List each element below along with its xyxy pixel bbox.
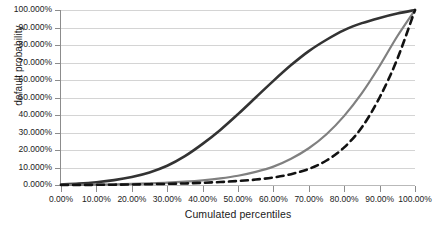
- x-tick-mark: [61, 186, 62, 192]
- x-tick-mark: [167, 186, 168, 192]
- chart-container: 0.000%10.000%20.000%30.000%40.000%50.000…: [0, 0, 435, 228]
- y-tick-label: 0.000%: [0, 179, 52, 189]
- y-tick-label: 10.000%: [0, 162, 52, 172]
- y-tick-label: 70.000%: [0, 57, 52, 67]
- y-tick-label: 80.000%: [0, 39, 52, 49]
- x-axis-title: Cumulated percentiles: [61, 208, 415, 220]
- y-tick-label: 100.000%: [0, 4, 52, 14]
- x-tick-mark: [380, 186, 381, 192]
- curve-dark-solid: [61, 10, 415, 184]
- data-series-layer: [61, 10, 415, 185]
- x-tick-mark: [238, 186, 239, 192]
- y-tick-label: 50.000%: [0, 92, 52, 102]
- x-tick-mark: [415, 186, 416, 192]
- x-tick-mark: [132, 186, 133, 192]
- y-axis-title: default probability: [13, 0, 24, 136]
- x-tick-label: 100.00%: [385, 194, 435, 204]
- curve-black-dashed: [61, 10, 415, 185]
- x-tick-mark: [344, 186, 345, 192]
- y-tick-label: 60.000%: [0, 74, 52, 84]
- x-tick-mark: [203, 186, 204, 192]
- x-tick-mark: [96, 186, 97, 192]
- y-tick-label: 90.000%: [0, 22, 52, 32]
- y-tick-label: 20.000%: [0, 144, 52, 154]
- x-tick-mark: [273, 186, 274, 192]
- y-tick-label: 40.000%: [0, 109, 52, 119]
- curve-gray-solid: [61, 10, 415, 185]
- y-tick-label: 30.000%: [0, 127, 52, 137]
- x-tick-mark: [309, 186, 310, 192]
